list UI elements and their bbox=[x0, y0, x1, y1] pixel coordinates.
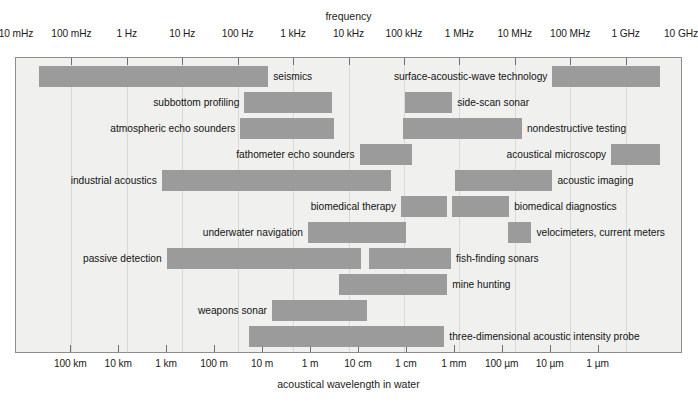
wavelength-tick-label: 1 m bbox=[302, 358, 319, 369]
frequency-range-bar[interactable] bbox=[369, 248, 451, 269]
wavelength-tick-label: 10 km bbox=[105, 358, 132, 369]
bar-label: velocimeters, current meters bbox=[531, 222, 665, 243]
bar-label: surface-acoustic-wave technology bbox=[394, 66, 552, 87]
bar-label: biomedical therapy bbox=[311, 196, 402, 217]
bar-label: three-dimensional acoustic intensity pro… bbox=[444, 326, 639, 347]
bar-label: weapons sonar bbox=[198, 300, 272, 321]
bar-label: biomedical diagnostics bbox=[509, 196, 617, 217]
frequency-tick-mark bbox=[238, 58, 239, 65]
frequency-range-bar[interactable] bbox=[455, 170, 553, 191]
frequency-tick-label: 1 kHz bbox=[280, 28, 306, 39]
frequency-tick-mark bbox=[626, 58, 627, 65]
frequency-tick-mark bbox=[404, 58, 405, 65]
wavelength-tick-label: 10 m bbox=[251, 358, 273, 369]
chart-row: mine hunting bbox=[16, 274, 681, 295]
bar-label: industrial acoustics bbox=[71, 170, 162, 191]
frequency-tick-label: 10 MHz bbox=[498, 28, 533, 39]
wavelength-axis-title: acoustical wavelength in water bbox=[0, 378, 697, 390]
chart-row: weapons sonar bbox=[16, 300, 681, 321]
frequency-range-bar[interactable] bbox=[611, 144, 660, 165]
chart-row: three-dimensional acoustic intensity pro… bbox=[16, 326, 681, 347]
chart-row: seismicssurface-acoustic-wave technology bbox=[16, 66, 681, 87]
chart-row: subbottom profilingside-scan sonar bbox=[16, 92, 681, 113]
frequency-tick-mark bbox=[459, 58, 460, 65]
wavelength-tick-label: 100 µm bbox=[485, 358, 519, 369]
frequency-axis-title: frequency bbox=[0, 10, 697, 22]
frequency-tick-mark bbox=[570, 58, 571, 65]
wavelength-tick-label: 10 cm bbox=[344, 358, 371, 369]
bar-label: fathometer echo sounders bbox=[236, 144, 359, 165]
wavelength-tick-label: 10 µm bbox=[536, 358, 564, 369]
bar-label: acoustical microscopy bbox=[507, 144, 612, 165]
bar-label: underwater navigation bbox=[203, 222, 308, 243]
frequency-range-bar[interactable] bbox=[405, 92, 452, 113]
frequency-tick-label: 100 MHz bbox=[550, 28, 590, 39]
chart-row: fathometer echo soundersacoustical micro… bbox=[16, 144, 681, 165]
bar-label: passive detection bbox=[83, 248, 167, 269]
frequency-range-bar[interactable] bbox=[403, 118, 522, 139]
wavelength-tick-label: 100 km bbox=[54, 358, 87, 369]
bar-label: acoustic imaging bbox=[552, 170, 633, 191]
frequency-tick-mark bbox=[127, 58, 128, 65]
bar-label: subbottom profiling bbox=[153, 92, 244, 113]
frequency-range-bar[interactable] bbox=[249, 326, 445, 347]
frequency-tick-label: 10 mHz bbox=[0, 28, 33, 39]
plot-inner: seismicssurface-acoustic-wave technology… bbox=[16, 58, 681, 352]
plot-area: seismicssurface-acoustic-wave technology… bbox=[15, 57, 682, 353]
bar-label: atmospheric echo sounders bbox=[110, 118, 240, 139]
frequency-tick-label: 1 GHz bbox=[611, 28, 639, 39]
frequency-range-bar[interactable] bbox=[39, 66, 268, 87]
frequency-tick-label: 100 Hz bbox=[222, 28, 254, 39]
frequency-tick-label: 10 GHz bbox=[664, 28, 698, 39]
frequency-range-bar[interactable] bbox=[240, 118, 333, 139]
frequency-tick-label: 10 kHz bbox=[333, 28, 364, 39]
frequency-tick-label: 10 Hz bbox=[169, 28, 195, 39]
frequency-tick-label: 1 MHz bbox=[445, 28, 474, 39]
chart-row: underwater navigationvelocimeters, curre… bbox=[16, 222, 681, 243]
bar-label: nondestructive testing bbox=[522, 118, 626, 139]
frequency-tick-mark bbox=[71, 58, 72, 65]
wavelength-axis-ticks: 100 km10 km1 km100 m10 m1 m10 cm1 cm1 mm… bbox=[0, 358, 697, 372]
frequency-range-bar[interactable] bbox=[401, 196, 447, 217]
frequency-range-bar[interactable] bbox=[162, 170, 391, 191]
frequency-range-bar[interactable] bbox=[167, 248, 362, 269]
bar-label: side-scan sonar bbox=[452, 92, 529, 113]
wavelength-tick-label: 1 km bbox=[155, 358, 177, 369]
bar-label: fish-finding sonars bbox=[451, 248, 539, 269]
wavelength-tick-label: 1 µm bbox=[586, 358, 608, 369]
frequency-tick-label: 100 kHz bbox=[386, 28, 423, 39]
frequency-range-bar[interactable] bbox=[272, 300, 367, 321]
bar-label: mine hunting bbox=[447, 274, 510, 295]
frequency-tick-mark bbox=[182, 58, 183, 65]
wavelength-tick-label: 1 cm bbox=[395, 358, 417, 369]
frequency-range-bar[interactable] bbox=[452, 196, 509, 217]
frequency-axis-ticks: 10 mHz100 mHz1 Hz10 Hz100 Hz1 kHz10 kHz1… bbox=[0, 28, 697, 42]
frequency-range-bar[interactable] bbox=[339, 274, 448, 295]
frequency-range-bar[interactable] bbox=[244, 92, 332, 113]
frequency-tick-mark bbox=[349, 58, 350, 65]
frequency-range-bar[interactable] bbox=[308, 222, 406, 243]
chart-row: passive detectionfish-finding sonars bbox=[16, 248, 681, 269]
chart-row: biomedical therapybiomedical diagnostics bbox=[16, 196, 681, 217]
frequency-tick-label: 100 mHz bbox=[51, 28, 91, 39]
bar-label: seismics bbox=[268, 66, 312, 87]
frequency-tick-label: 1 Hz bbox=[117, 28, 138, 39]
frequency-tick-mark bbox=[293, 58, 294, 65]
frequency-range-bar[interactable] bbox=[552, 66, 660, 87]
frequency-tick-mark bbox=[515, 58, 516, 65]
wavelength-tick-label: 1 mm bbox=[441, 358, 466, 369]
frequency-range-bar[interactable] bbox=[360, 144, 413, 165]
frequency-range-bar[interactable] bbox=[508, 222, 532, 243]
chart-row: atmospheric echo soundersnondestructive … bbox=[16, 118, 681, 139]
wavelength-tick-label: 100 m bbox=[200, 358, 228, 369]
chart-row: industrial acousticsacoustic imaging bbox=[16, 170, 681, 191]
